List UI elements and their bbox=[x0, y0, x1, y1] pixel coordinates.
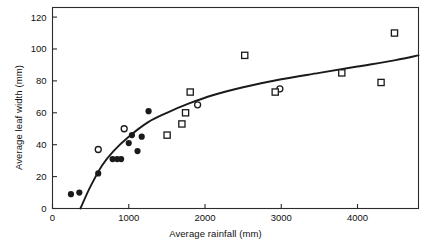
plot-frame bbox=[53, 8, 419, 209]
fitted-curve bbox=[80, 55, 418, 208]
svg-text:20: 20 bbox=[36, 171, 47, 182]
svg-text:4000: 4000 bbox=[347, 212, 368, 223]
svg-text:0: 0 bbox=[41, 203, 46, 214]
svg-text:0: 0 bbox=[50, 212, 55, 223]
data-markers bbox=[68, 30, 398, 197]
svg-text:60: 60 bbox=[36, 107, 47, 118]
svg-text:1000: 1000 bbox=[118, 212, 139, 223]
x-axis-label: Average rainfall (mm) bbox=[0, 228, 431, 239]
svg-text:100: 100 bbox=[31, 43, 47, 54]
svg-text:80: 80 bbox=[36, 75, 47, 86]
svg-text:2000: 2000 bbox=[194, 212, 215, 223]
axis-ticks bbox=[53, 17, 358, 208]
y-axis-label: Average leaf width (mm) bbox=[13, 38, 24, 198]
svg-text:120: 120 bbox=[31, 12, 47, 23]
svg-text:40: 40 bbox=[36, 139, 47, 150]
figure-scatter-rainfall-leafwidth: 01000200030004000020406080100120 Average… bbox=[0, 0, 431, 246]
plot-area: 01000200030004000020406080100120 bbox=[0, 0, 431, 246]
svg-text:3000: 3000 bbox=[271, 212, 292, 223]
